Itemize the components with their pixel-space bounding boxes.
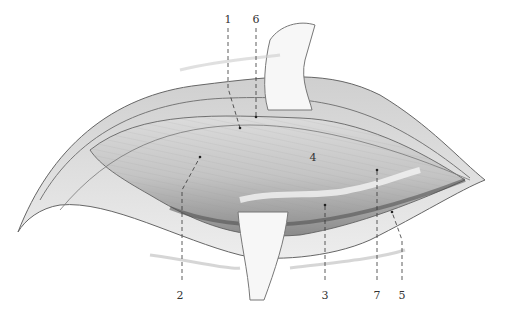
label-4: 4	[310, 152, 317, 163]
illustration-drawing	[0, 0, 505, 314]
leader-dot-2	[199, 156, 202, 159]
label-7: 7	[374, 290, 381, 301]
label-2: 2	[177, 290, 184, 301]
label-6: 6	[253, 14, 260, 25]
leader-dot-3	[324, 204, 327, 207]
leader-dot-5	[391, 211, 394, 214]
label-1: 1	[225, 14, 232, 25]
leader-dot-7	[376, 169, 379, 172]
leader-dot-6	[255, 116, 258, 119]
label-5: 5	[399, 290, 406, 301]
label-3: 3	[322, 290, 329, 301]
leader-dot-1	[239, 127, 242, 130]
anatomical-illustration: 1642375	[0, 0, 505, 314]
upper-retractor	[265, 23, 315, 110]
